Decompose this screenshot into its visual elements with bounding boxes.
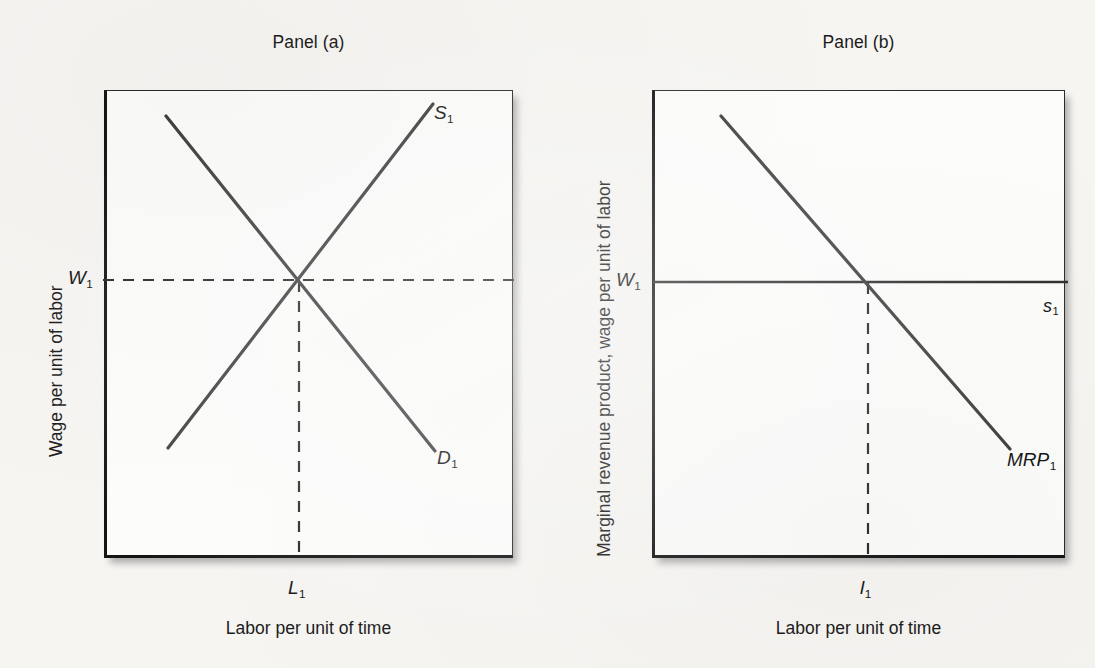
- panel-a-supply-curve-label: S1: [434, 103, 453, 122]
- panel-b-plot-box: [652, 90, 1065, 558]
- panel-a-wage-tick-label: W1: [68, 268, 92, 287]
- panel-a-curves: [107, 91, 516, 559]
- panel-b-title: Panel (b): [652, 32, 1065, 53]
- panel-b-curves: [655, 91, 1068, 559]
- panel-b-labor-tick-label: l1: [860, 578, 871, 597]
- panel-b-labor-supply-curve-label: s1: [1043, 297, 1058, 315]
- panel-b-mrp-curve-label: MRP1: [1007, 450, 1056, 469]
- panel-b-plot-area: [655, 91, 1064, 555]
- panel-a-plot-area: [107, 91, 512, 555]
- labor-market-figure: Panel (a) Wage per unit of labor S1 D1 W…: [0, 0, 1095, 668]
- panel-a-title: Panel (a): [104, 32, 513, 53]
- panel-b-y-axis-title: Marginal revenue product, wage per unit …: [594, 181, 615, 557]
- panel-b-x-axis-title: Labor per unit of time: [652, 618, 1065, 639]
- panel-b-wage-tick-label: W1: [616, 270, 640, 289]
- panel-a-y-axis-title: Wage per unit of labor: [46, 285, 67, 457]
- panel-a-plot-box: [104, 90, 513, 558]
- panel-a-supply-curve: [168, 104, 433, 448]
- panel-a-labor-tick-label: L1: [288, 578, 305, 597]
- panel-a-demand-curve-label: D1: [437, 448, 457, 467]
- panel-a-x-axis-title: Labor per unit of time: [104, 618, 513, 639]
